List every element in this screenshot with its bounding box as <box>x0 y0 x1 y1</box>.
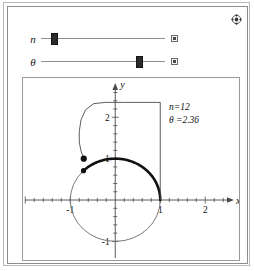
app-outer-frame: n θ -11221-1 x y n=12 θ =2.36 <box>3 2 250 266</box>
x-tick-label: 2 <box>203 205 208 215</box>
x-axis-label: x <box>235 195 239 206</box>
slider-track-theta[interactable] <box>41 61 165 62</box>
slider-n[interactable] <box>41 31 165 47</box>
slider-thumb-theta[interactable] <box>136 56 143 68</box>
graphic-panel: -11221-1 x y n=12 θ =2.36 <box>22 77 240 261</box>
slider-label-theta: θ <box>25 54 41 70</box>
y-tick-label: 2 <box>105 113 110 123</box>
app-inner-frame: n θ -11221-1 x y n=12 θ =2.36 <box>7 6 248 264</box>
slider-theta[interactable] <box>41 54 165 70</box>
string-endpoint <box>81 156 87 162</box>
control-row-theta: θ <box>8 54 247 70</box>
involute-plot: -11221-1 x y n=12 θ =2.36 <box>23 78 239 260</box>
animate-button-theta[interactable] <box>171 58 178 65</box>
slider-track-n[interactable] <box>41 38 165 39</box>
tangent-point <box>81 168 86 173</box>
wrapped-arc <box>83 159 160 200</box>
slider-thumb-n[interactable] <box>51 33 58 45</box>
annotation-theta: θ =2.36 <box>169 115 199 125</box>
animate-button-n[interactable] <box>171 35 178 42</box>
settings-plus-icon[interactable] <box>231 11 242 22</box>
control-row-n: n <box>8 31 247 47</box>
y-axis-label: y <box>119 79 125 90</box>
y-tick-label: -1 <box>102 237 110 247</box>
unwound-string <box>79 102 160 200</box>
slider-label-n: n <box>25 31 41 47</box>
annotation-n: n=12 <box>169 102 190 112</box>
